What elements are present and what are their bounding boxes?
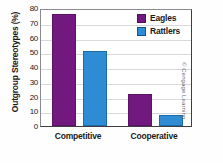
legend-label: Rattlers	[150, 26, 180, 36]
bar-eagles-cooperative	[128, 94, 152, 126]
y-axis-tick-label: 40	[18, 64, 38, 72]
y-axis-tick-label: 30	[18, 79, 38, 87]
bar-chart: Outgroup Stereotypes (%) 010203040506070…	[0, 0, 223, 163]
x-axis-tick-label: Cooperative	[131, 131, 178, 141]
y-axis-tick-label: 20	[18, 94, 38, 102]
legend-item-eagles[interactable]: Eagles	[137, 13, 180, 23]
legend-label: Eagles	[150, 13, 176, 23]
legend-item-rattlers[interactable]: Rattlers	[137, 26, 180, 36]
y-axis-tick-label: 60	[18, 35, 38, 43]
y-axis-tick-label: 0	[18, 123, 38, 131]
legend-swatch-icon	[137, 14, 146, 23]
bar-eagles-competitive	[52, 14, 76, 126]
y-axis-tick-label: 80	[18, 5, 38, 13]
bar-rattlers-cooperative	[159, 115, 183, 126]
y-axis-tick-label: 70	[18, 20, 38, 28]
chart-legend: EaglesRattlers	[137, 13, 180, 36]
y-axis-tick-label: 50	[18, 49, 38, 57]
legend-swatch-icon	[137, 27, 146, 36]
bar-rattlers-competitive	[83, 51, 107, 126]
copyright-credit: © Cengage Learning	[181, 62, 187, 142]
x-axis-tick-labels: CompetitiveCooperative	[40, 131, 192, 145]
y-axis-tick-labels: 01020304050607080	[18, 9, 38, 127]
y-axis-tick-label: 10	[18, 108, 38, 116]
x-axis-tick-label: Competitive	[55, 131, 101, 141]
